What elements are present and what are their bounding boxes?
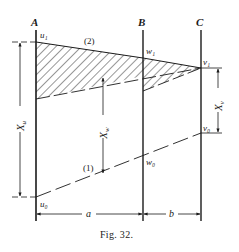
figure-caption: Fig. 32. bbox=[100, 229, 133, 240]
label-c: C bbox=[196, 16, 204, 28]
figure-32-diagram: A B C u₁ w₁ v₁ u₀ w₀ v₀ (2) (1) Xu Xw Xv… bbox=[0, 0, 239, 252]
svg-text:Xw: Xw bbox=[97, 127, 111, 140]
label-w1: w₁ bbox=[146, 46, 155, 56]
label-w0: w₀ bbox=[146, 157, 155, 167]
hatched-region-ab bbox=[36, 42, 143, 99]
label-a: A bbox=[30, 16, 38, 28]
label-line-1: (1) bbox=[83, 163, 94, 173]
label-xu: Xu bbox=[14, 120, 28, 132]
label-v0: v₀ bbox=[203, 123, 210, 133]
label-xw: Xw bbox=[97, 127, 111, 140]
label-v1: v₁ bbox=[203, 57, 210, 67]
label-u0: u₀ bbox=[40, 199, 48, 209]
label-b: B bbox=[137, 16, 145, 28]
label-u1: u₁ bbox=[40, 30, 48, 40]
line-1 bbox=[36, 133, 201, 197]
label-dimension-b: b bbox=[169, 208, 174, 219]
label-xv: Xv bbox=[212, 100, 226, 112]
label-dimension-a: a bbox=[86, 208, 91, 219]
label-line-2: (2) bbox=[84, 36, 95, 46]
svg-text:Xu: Xu bbox=[14, 120, 28, 132]
svg-text:Xv: Xv bbox=[212, 100, 226, 112]
